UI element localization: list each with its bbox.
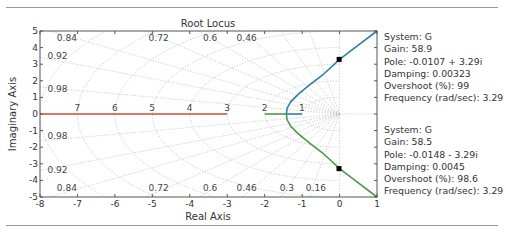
- wn-grid-arc: [302, 97, 340, 130]
- datatip-gain: Gain: 58.5: [384, 136, 503, 148]
- y-tick-label: 3: [32, 59, 38, 69]
- x-tick-label: -4: [185, 199, 194, 209]
- branch-blue-upper: [286, 31, 377, 114]
- damping-label: 0.92: [47, 51, 67, 61]
- y-tick-label: 2: [32, 76, 38, 86]
- x-tick-label: 0: [337, 199, 343, 209]
- datatip-frequency: Frequency (rad/sec): 3.29: [384, 92, 503, 104]
- y-tick-label: -3: [29, 159, 38, 169]
- locus-branches: [40, 31, 377, 197]
- datatip-lower[interactable]: System: G Gain: 58.5 Pole: -0.0148 - 3.2…: [384, 124, 503, 198]
- datatip-damping: Damping: 0.0045: [384, 161, 503, 173]
- y-tick-label: 1: [32, 92, 38, 102]
- y-tick-label: -1: [29, 126, 38, 136]
- damping-label: 0.72: [149, 183, 169, 193]
- x-tick-label: -1: [298, 199, 307, 209]
- datatip-pole: Pole: -0.0148 - 3.29i: [384, 149, 503, 161]
- damping-label: 0.72: [149, 33, 169, 43]
- datatip-system: System: G: [384, 124, 503, 136]
- datatip-upper[interactable]: System: G Gain: 58.9 Pole: -0.0107 + 3.2…: [384, 31, 503, 105]
- damping-label: 0.84: [57, 183, 77, 193]
- damping-label: 0.3: [280, 183, 294, 193]
- y-tick-label: 5: [32, 26, 38, 36]
- damping-label: 0.16: [306, 183, 326, 193]
- datatip-gain: Gain: 58.9: [384, 43, 503, 55]
- pole-datatip-upper: [337, 57, 342, 62]
- branch-green-lower: [286, 114, 377, 197]
- y-tick-label: -2: [29, 142, 38, 152]
- frequency-label: 4: [187, 103, 193, 113]
- chart-title: Root Locus: [181, 18, 235, 29]
- frequency-label: 7: [74, 103, 80, 113]
- x-axis-title: Real Axis: [185, 211, 230, 222]
- x-tick-label: -2: [260, 199, 269, 209]
- damping-label: 0.92: [47, 165, 67, 175]
- x-tick-label: -6: [110, 199, 119, 209]
- damping-grid-ray: [220, 114, 340, 233]
- damping-label: 0.6: [203, 183, 218, 193]
- pole-datatip-lower: [337, 166, 342, 171]
- damping-label: 0.6: [203, 33, 218, 43]
- frequency-label: 3: [224, 103, 230, 113]
- datatip-pole: Pole: -0.0107 + 3.29i: [384, 56, 503, 68]
- x-tick-label: 1: [374, 199, 380, 209]
- damping-label: 0.46: [237, 33, 257, 43]
- y-tick-label: -5: [29, 192, 38, 202]
- datatip-system: System: G: [384, 31, 503, 43]
- y-tick-label: -4: [29, 175, 38, 185]
- grid-labels: 0.840.720.60.460.920.980.980.920.840.720…: [47, 33, 326, 192]
- y-axis-title: Imaginary Axis: [7, 77, 18, 151]
- damping-label: 0.98: [47, 84, 67, 94]
- frequency-label: 5: [149, 103, 155, 113]
- y-tick-label: 0: [32, 109, 38, 119]
- frequency-label: 6: [112, 103, 118, 113]
- frequency-label: 2: [262, 103, 268, 113]
- y-tick-label: 4: [32, 43, 38, 53]
- datatip-damping: Damping: 0.00323: [384, 68, 503, 80]
- datatip-frequency: Frequency (rad/sec): 3.29: [384, 185, 503, 197]
- x-tick-label: -7: [73, 199, 82, 209]
- x-tick-label: -3: [223, 199, 232, 209]
- damping-label: 0.46: [237, 183, 257, 193]
- damping-label: 0.84: [57, 33, 77, 43]
- datatip-overshoot: Overshoot (%): 98.6: [384, 173, 503, 185]
- frequency-label: 1: [299, 103, 305, 113]
- x-tick-label: -5: [148, 199, 157, 209]
- datatip-overshoot: Overshoot (%): 99: [384, 80, 503, 92]
- damping-label: 0.98: [47, 131, 67, 141]
